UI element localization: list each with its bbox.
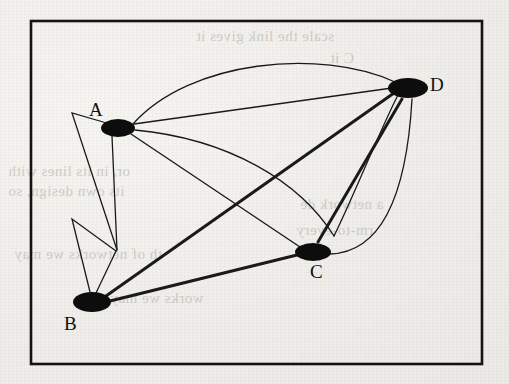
node-label-a: A [89, 99, 103, 121]
node-label-c: C [310, 261, 323, 283]
node-label-d: D [430, 74, 444, 96]
edge-c-d-arc [330, 99, 412, 254]
node-label-b: B [64, 313, 77, 335]
edge-a-d-lower-arc [135, 130, 334, 236]
node-d[interactable] [388, 78, 428, 98]
edge-b-self-loop [72, 219, 116, 292]
edge-a-d-upper-arc [133, 63, 395, 124]
edge-a-d-lower-arc-tail [334, 95, 398, 236]
graph-edges [72, 63, 412, 301]
node-a[interactable] [101, 119, 135, 137]
edge-c-d-straight [318, 99, 402, 242]
edge-b-self-loop-return [96, 251, 116, 293]
node-c[interactable] [295, 243, 331, 261]
edge-a-c [131, 134, 300, 247]
edge-a-self-loop-return [112, 136, 117, 250]
node-b[interactable] [73, 292, 111, 312]
scanned-page: scale the link gives it C it or, in its … [0, 0, 509, 384]
edge-b-c [110, 255, 297, 301]
